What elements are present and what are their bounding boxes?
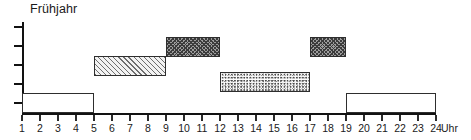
activity-bar	[166, 37, 220, 57]
x-axis-tick	[57, 115, 58, 121]
x-axis-tick	[147, 115, 148, 121]
x-axis-tick-label: 12	[214, 122, 226, 134]
x-axis-tick-label: 22	[394, 122, 406, 134]
x-axis-tick-label: 8	[145, 122, 151, 134]
x-axis-tick	[21, 115, 22, 121]
activity-bar	[94, 56, 166, 76]
x-axis-tick-label: 11	[197, 122, 208, 134]
x-axis-tick	[327, 115, 328, 121]
x-axis-tick	[399, 115, 400, 121]
x-axis-tick	[363, 115, 364, 121]
x-axis-tick	[39, 115, 40, 121]
x-axis-tick-label: 6	[109, 122, 115, 134]
x-axis-tick-label: 4	[73, 122, 79, 134]
x-axis-tick-label: 17	[304, 122, 316, 134]
activity-bar	[22, 93, 94, 113]
x-axis-tick-label: 19	[340, 122, 352, 134]
x-axis-tick-label: 9	[163, 122, 169, 134]
x-axis-tick-label: 14	[250, 122, 262, 134]
x-axis-tick-label: 13	[232, 122, 244, 134]
x-axis-tick	[255, 115, 256, 121]
activity-bar	[310, 37, 346, 57]
x-axis-tick	[309, 115, 310, 121]
x-axis-tick-label: 21	[376, 122, 388, 134]
y-axis-tick	[14, 102, 22, 104]
x-axis-tick-label: 10	[178, 122, 190, 134]
y-axis-tick	[14, 45, 22, 47]
x-axis-tick-label: 2	[37, 122, 43, 134]
y-axis-tick	[14, 83, 22, 85]
x-axis-tick	[237, 115, 238, 121]
x-axis-tick	[201, 115, 202, 121]
y-axis-tick	[14, 26, 22, 28]
y-axis-tick	[14, 64, 22, 66]
x-axis-tick	[435, 115, 436, 121]
x-axis-tick-label: 18	[322, 122, 334, 134]
activity-bar	[220, 72, 310, 92]
x-axis-tick-label: 5	[91, 122, 97, 134]
x-axis-tick-label: 7	[127, 122, 133, 134]
x-axis-tick-label: 16	[286, 122, 298, 134]
chart-title: Frühjahr	[30, 2, 77, 16]
x-axis-line	[22, 113, 436, 115]
x-axis-tick	[381, 115, 382, 121]
x-axis-unit-label: Uhr	[441, 122, 458, 134]
x-axis-tick	[75, 115, 76, 121]
x-axis-tick	[273, 115, 274, 121]
x-axis-tick-label: 15	[268, 122, 280, 134]
x-axis-tick	[93, 115, 94, 121]
x-axis-tick	[291, 115, 292, 121]
x-axis-tick-label: 1	[19, 122, 25, 134]
x-axis-tick	[183, 115, 184, 121]
x-axis-tick-label: 20	[358, 122, 370, 134]
x-axis-tick	[345, 115, 346, 121]
x-axis-tick	[111, 115, 112, 121]
x-axis-tick	[417, 115, 418, 121]
x-axis-tick-label: 3	[55, 122, 61, 134]
x-axis-tick	[165, 115, 166, 121]
x-axis-tick-label: 23	[412, 122, 424, 134]
activity-bar	[346, 93, 436, 113]
activity-time-chart: Frühjahr 1234567891011121314151617181920…	[0, 0, 471, 140]
x-axis-tick	[219, 115, 220, 121]
x-axis-tick	[129, 115, 130, 121]
